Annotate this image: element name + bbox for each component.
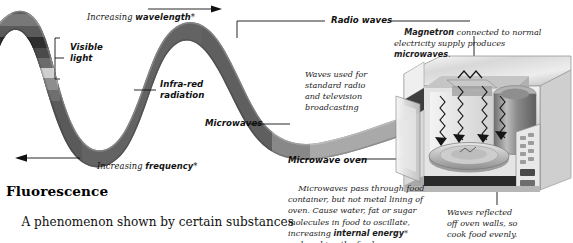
fluorescence-paragraph: A phenomenon shown by certain substances… [6, 200, 306, 243]
radio-waves-label: Radio waves [331, 15, 392, 26]
frequency-axis-label: Increasing frequency* [86, 152, 198, 181]
fluorescence-heading: Fluorescence [6, 183, 108, 199]
microwave-oven-title: Microwave oven [288, 155, 367, 166]
fluorescence-line-1: A phenomenon shown by certain substances [21, 215, 294, 229]
visible-light-bracket [55, 38, 64, 79]
microwaves-label: Microwaves [205, 118, 263, 129]
oven-control-panel[interactable] [516, 124, 540, 190]
wavelength-axis-label: Increasing wavelength* [76, 3, 195, 32]
infra-red-label: Infra-red radiation [160, 79, 204, 100]
visible-light-label: Visible light [70, 42, 103, 63]
turntable-plate [429, 143, 509, 173]
wave-reflection-callout: Waves reflected off oven walls, so cook … [447, 207, 557, 240]
radio-use-callout: Waves used for standard radio and televi… [305, 69, 395, 114]
microwave-oven-description: Microwaves pass through food container, … [288, 172, 438, 243]
frequency-arrow [15, 154, 80, 162]
figure-canvas: Increasing wavelength* Increasing freque… [0, 0, 573, 243]
magnetron-callout: Magnetron connected to normal electricit… [394, 16, 569, 72]
